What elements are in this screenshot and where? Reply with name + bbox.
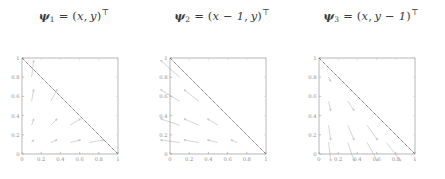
psi-symbol: ψ <box>323 9 334 23</box>
psi-subscript: 2 <box>185 15 190 24</box>
x-tick-label: 0 <box>168 156 171 162</box>
plot-psi-2: 00.20.40.60.8100.20.40.60.81 <box>148 34 296 179</box>
plot-psi-3: 00.20.40.60.8100.20.40.60.81 <box>297 34 445 179</box>
quiver-arrow <box>89 140 104 143</box>
x-tick-label: 0.6 <box>75 156 83 162</box>
quiver-arrow <box>184 140 199 143</box>
y-tick-label: 0.4 <box>308 113 317 119</box>
y-tick-label: 0.2 <box>308 132 316 138</box>
x-tick-label: 0 <box>20 156 23 162</box>
x-tick-label: 0.8 <box>95 156 103 162</box>
quiver-arrow <box>51 90 57 102</box>
quiver-arrow <box>329 125 331 140</box>
quiver-arrow <box>184 119 199 125</box>
tick-group: 00.20.40.60.8100.20.40.60.81 <box>159 55 267 162</box>
y-tick-label: 0 <box>313 151 316 157</box>
x-tick-label: 0.2 <box>334 156 342 162</box>
x-tick-label: 0.6 <box>223 156 231 162</box>
y-tick-label: 0.2 <box>159 132 167 138</box>
axes-box <box>319 58 415 154</box>
x-tick-label: 0.2 <box>185 156 193 162</box>
y-tick-label: 1 <box>16 55 19 61</box>
vector-field <box>329 77 401 161</box>
comma: , <box>84 9 88 23</box>
x-tick-label: 0.4 <box>204 156 213 162</box>
y-tick-label: 0.6 <box>159 93 167 99</box>
panel-psi-2: ψ2 = (x − 1, y)⊤ 00.20.40.60.8100.20.40.… <box>148 0 296 179</box>
equals-sign: = <box>343 9 353 23</box>
x-tick-label: 0.8 <box>392 156 400 162</box>
y-tick-label: 0.4 <box>11 113 20 119</box>
comma: , <box>244 9 248 23</box>
y-tick-label: 0.6 <box>11 93 19 99</box>
x-tick-label: 0.6 <box>372 156 380 162</box>
tick-group: 00.20.40.60.8100.20.40.60.81 <box>11 55 119 162</box>
comma: , <box>368 9 372 23</box>
psi-subscript: 1 <box>50 15 55 24</box>
quiver-arrow <box>329 142 331 161</box>
y-term: y − 1 <box>375 9 407 23</box>
transpose-symbol: ⊤ <box>411 8 419 17</box>
equals-sign: = <box>59 9 69 23</box>
quiver-arrow <box>348 125 354 140</box>
x-tick-label: 1 <box>413 156 416 162</box>
triple-quiver-figure: ψ1 = (x, y)⊤ 00.20.40.60.8100.20.40.60.8… <box>0 0 445 179</box>
y-tick-label: 0.4 <box>159 113 168 119</box>
x-term: x − 1 <box>213 9 245 23</box>
y-tick-label: 0.6 <box>308 93 316 99</box>
y-tick-label: 1 <box>313 55 316 61</box>
y-tick-label: 0 <box>164 151 167 157</box>
formula-psi-3: ψ3 = (x, y − 1)⊤ <box>297 8 445 24</box>
panel-psi-3: ψ3 = (x, y − 1)⊤ 00.20.40.60.8100.20.40.… <box>297 0 445 179</box>
tick-group: 00.20.40.60.8100.20.40.60.81 <box>308 55 416 162</box>
x-tick-label: 0 <box>317 156 320 162</box>
x-tick-label: 1 <box>264 156 267 162</box>
psi-symbol: ψ <box>39 9 50 23</box>
transpose-symbol: ⊤ <box>101 8 109 17</box>
psi-symbol: ψ <box>174 9 185 23</box>
quiver-arrow <box>207 119 218 125</box>
psi-subscript: 3 <box>334 15 339 24</box>
x-tick-label: 0.4 <box>56 156 65 162</box>
quiver-arrow <box>184 90 199 102</box>
y-tick-label: 0 <box>16 151 19 157</box>
vector-field <box>161 60 238 142</box>
equals-sign: = <box>194 9 204 23</box>
quiver-arrow <box>367 125 378 140</box>
y-tick-label: 0.2 <box>11 132 19 138</box>
y-tick-label: 1 <box>164 55 167 61</box>
transpose-symbol: ⊤ <box>262 8 270 17</box>
x-term: x <box>77 9 84 23</box>
x-tick-label: 1 <box>116 156 119 162</box>
x-tick-label: 0.2 <box>37 156 45 162</box>
y-term: y <box>90 9 97 23</box>
formula-psi-2: ψ2 = (x − 1, y)⊤ <box>148 8 296 24</box>
y-tick-label: 0.8 <box>11 74 19 80</box>
hypotenuse-line <box>319 58 415 154</box>
panel-psi-1: ψ1 = (x, y)⊤ 00.20.40.60.8100.20.40.60.8… <box>0 0 148 179</box>
x-tick-label: 0.4 <box>353 156 362 162</box>
vector-field <box>32 60 104 142</box>
y-tick-label: 0.8 <box>159 74 167 80</box>
quiver-arrow <box>348 101 354 111</box>
x-tick-label: 0.8 <box>243 156 251 162</box>
y-tick-label: 0.8 <box>308 74 316 80</box>
quiver-arrow <box>70 119 81 125</box>
formula-psi-1: ψ1 = (x, y)⊤ <box>0 8 148 24</box>
quiver-arrow <box>51 119 57 125</box>
plot-psi-1: 00.20.40.60.8100.20.40.60.81 <box>0 34 148 179</box>
